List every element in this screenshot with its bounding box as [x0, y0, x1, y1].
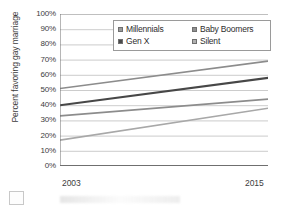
legend-item-millennials[interactable]: Millennials [118, 24, 192, 34]
legend-label: Gen X [126, 36, 149, 46]
y-tick-label: 80% [22, 40, 56, 48]
legend-swatch-icon [192, 39, 197, 44]
y-tick-label: 60% [22, 71, 56, 79]
y-tick-label: 10% [22, 147, 56, 155]
y-tick-label: 40% [22, 101, 56, 109]
legend-item-baby-boomers[interactable]: Baby Boomers [192, 24, 253, 34]
series-line-millennials [60, 61, 268, 88]
y-axis-title: Percent favoring gay marriage [10, 0, 20, 140]
y-tick-label: 90% [22, 25, 56, 33]
legend-row: MillennialsBaby Boomers [118, 23, 267, 35]
x-axis-label-start: 2003 [62, 178, 81, 188]
y-tick-label: 100% [22, 10, 56, 18]
y-axis-tick-labels: 100%90%80%70%60%50%40%30%20%10%0% [20, 0, 56, 208]
y-tick-label: 70% [22, 56, 56, 64]
page-scan-artifact [9, 191, 24, 205]
legend-row: Gen XSilent [118, 35, 267, 47]
legend-item-gen-x[interactable]: Gen X [118, 36, 192, 46]
y-tick-label: 20% [22, 132, 56, 140]
y-tick-label: 50% [22, 86, 56, 94]
y-tick-label: 0% [22, 162, 56, 170]
line-chart-figure: Percent favoring gay marriage 100%90%80%… [0, 0, 281, 208]
legend-swatch-icon [118, 39, 123, 44]
y-tick-label: 30% [22, 116, 56, 124]
chart-legend: MillennialsBaby BoomersGen XSilent [113, 20, 271, 51]
legend-label: Millennials [126, 24, 163, 34]
legend-label: Baby Boomers [200, 24, 253, 34]
legend-swatch-icon [118, 27, 123, 32]
x-axis-label-end: 2015 [245, 178, 264, 188]
series-lines [60, 61, 268, 140]
legend-item-silent[interactable]: Silent [192, 36, 220, 46]
page-scan-smudge [60, 196, 180, 203]
legend-swatch-icon [192, 27, 197, 32]
legend-label: Silent [200, 36, 220, 46]
